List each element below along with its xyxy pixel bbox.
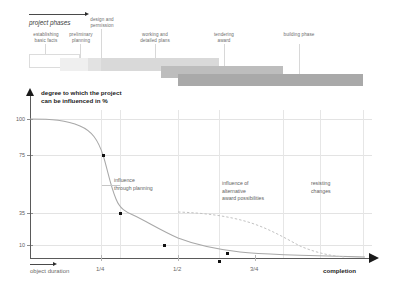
data-point-axis bbox=[218, 260, 221, 263]
x-axis-label-completion: completion bbox=[323, 267, 356, 275]
data-point-mid bbox=[163, 244, 166, 247]
annotation-resisting-changes: resisting changes bbox=[311, 180, 357, 195]
x-axis-label-object-duration: object duration bbox=[30, 268, 69, 276]
curve-layer bbox=[0, 0, 396, 292]
xtick-label-half: 1/2 bbox=[173, 266, 181, 274]
xtick-label-quarter: 1/4 bbox=[96, 266, 104, 274]
annotation-influence-alternative-award: influence of alternative award possibili… bbox=[222, 180, 294, 203]
data-point-75 bbox=[102, 154, 105, 157]
figure-canvas: project phases establishing basic facts … bbox=[0, 0, 396, 292]
xtick-mark-quarter bbox=[101, 255, 102, 261]
annotation-influence-through-planning: influence through planning bbox=[114, 177, 184, 192]
xtick-label-threequarter: 3/4 bbox=[250, 266, 258, 274]
data-point-late bbox=[226, 252, 229, 255]
alternative-award-curve bbox=[178, 212, 345, 257]
xtick-mark-threequarter bbox=[255, 255, 256, 261]
data-point-35 bbox=[119, 212, 122, 215]
object-duration-arrow-line bbox=[30, 264, 54, 265]
xtick-mark-half bbox=[178, 255, 179, 261]
object-duration-arrow-icon bbox=[53, 262, 57, 266]
